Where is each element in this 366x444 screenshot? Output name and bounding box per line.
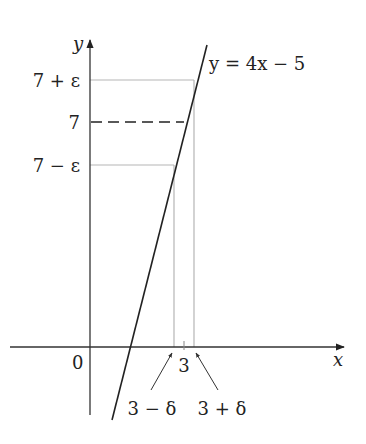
left-delta-label: 3 − δ xyxy=(128,398,177,419)
upper-epsilon-label: 7 + ε xyxy=(33,70,80,91)
origin-label: 0 xyxy=(72,352,83,373)
x-center-label: 3 xyxy=(178,355,189,376)
epsilon-delta-diagram: y x 0 7 + ε 7 7 − ε y = 4x − 5 3 3 − δ 3… xyxy=(0,0,366,444)
x-axis-label: x xyxy=(333,349,343,370)
center-value-label: 7 xyxy=(69,112,80,133)
function-line xyxy=(112,45,207,420)
equation-label: y = 4x − 5 xyxy=(208,53,305,74)
y-axis-label: y xyxy=(72,33,84,54)
right-delta-pointer-arrow xyxy=(196,353,218,390)
left-delta-pointer-arrow xyxy=(151,353,172,390)
lower-epsilon-label: 7 − ε xyxy=(33,155,80,176)
right-delta-label: 3 + δ xyxy=(198,398,247,419)
